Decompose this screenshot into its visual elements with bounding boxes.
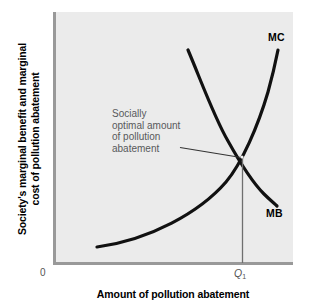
y-axis-title: Society's marginal benefit and marginal … xyxy=(16,10,50,268)
origin-label: 0 xyxy=(40,267,46,278)
socially-optimal-point-marker xyxy=(240,155,243,158)
x-axis-title: Amount of pollution abatement xyxy=(53,288,293,300)
q1-tick-letter: Q xyxy=(234,267,242,279)
annotation-line-1: Socially xyxy=(112,108,190,120)
annotation-line-4: abatement xyxy=(112,143,190,155)
y-axis-title-line-1: Society's marginal benefit and marginal xyxy=(16,10,29,268)
y-axis-title-line-2: cost of pollution abatement xyxy=(29,10,42,268)
q1-tick-subscript: 1 xyxy=(242,273,246,280)
annotation-line-2: optimal amount xyxy=(112,120,190,132)
q1-tick-label: Q1 xyxy=(234,267,246,279)
mb-curve-label: MB xyxy=(266,207,283,219)
socially-optimal-annotation: Socially optimal amount of pollution aba… xyxy=(112,108,190,154)
pollution-abatement-chart: Society's marginal benefit and marginal … xyxy=(0,0,310,307)
mc-curve-label: MC xyxy=(268,31,285,43)
annotation-line-3: of pollution xyxy=(112,131,190,143)
